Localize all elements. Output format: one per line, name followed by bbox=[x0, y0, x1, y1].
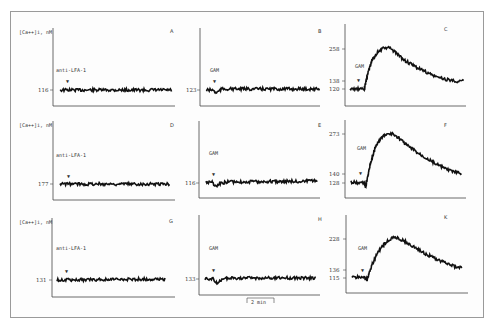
scale-bar-label: 2 min bbox=[251, 299, 266, 305]
trace-a bbox=[60, 89, 172, 92]
panel-label: G bbox=[169, 218, 173, 224]
panel-h: H GAM 133 ▼ 2 min bbox=[185, 215, 322, 305]
panel-label: A bbox=[170, 28, 174, 34]
stimulus-label: anti-LFA-1 bbox=[56, 152, 86, 158]
y-axis-label: [Ca++]i, nM bbox=[19, 219, 52, 225]
baseline-tick: 115 bbox=[329, 275, 340, 281]
trace-h bbox=[205, 277, 316, 285]
stimulus-label: GAM bbox=[358, 245, 367, 251]
trace-e bbox=[206, 180, 318, 187]
stimulus-arrow-icon: ▼ bbox=[67, 173, 70, 179]
panel-k: K GAM 228 136 115 ▼ bbox=[329, 214, 468, 293]
peak-tick: 273 bbox=[329, 131, 340, 137]
panel-label: C bbox=[444, 26, 448, 32]
baseline-tick: 177 bbox=[38, 181, 49, 187]
stimulus-arrow-icon: ▼ bbox=[65, 268, 68, 274]
trace-f bbox=[351, 133, 461, 187]
calcium-traces-figure: [Ca++]i, nM A anti-LFA-1 116 ▼ B GAM 123… bbox=[0, 0, 495, 332]
plateau-tick: 136 bbox=[329, 267, 340, 273]
panel-label: H bbox=[318, 216, 322, 222]
stimulus-arrow-icon: ▼ bbox=[66, 78, 69, 84]
peak-tick: 228 bbox=[329, 236, 340, 242]
panel-e: E GAM 116 ▼ bbox=[185, 121, 321, 198]
trace-c bbox=[350, 47, 464, 90]
panel-d: [Ca++]i, nM D anti-LFA-1 177 ▼ bbox=[19, 121, 175, 200]
stimulus-label: GAM bbox=[355, 63, 364, 69]
plateau-tick: 138 bbox=[329, 78, 340, 84]
baseline-tick: 120 bbox=[329, 86, 340, 92]
baseline-tick: 116 bbox=[38, 87, 49, 93]
time-scale-bar: 2 min bbox=[247, 298, 274, 305]
baseline-tick: 116 bbox=[185, 180, 196, 186]
baseline-tick: 133 bbox=[185, 276, 196, 282]
stimulus-arrow-icon: ▼ bbox=[361, 267, 364, 273]
panel-label: K bbox=[444, 214, 448, 220]
stimulus-label: anti-LFA-1 bbox=[56, 245, 86, 251]
panel-label: B bbox=[318, 28, 322, 34]
panel-label: D bbox=[170, 122, 174, 128]
trace-d bbox=[60, 183, 170, 186]
stimulus-label: GAM bbox=[209, 245, 218, 251]
plateau-tick: 140 bbox=[329, 171, 340, 177]
y-axis-label: [Ca++]i, nM bbox=[19, 122, 52, 128]
stimulus-arrow-icon: ▼ bbox=[359, 170, 362, 176]
baseline-tick: 131 bbox=[36, 277, 47, 283]
panel-label: E bbox=[318, 122, 321, 128]
trace-k bbox=[352, 237, 462, 281]
peak-tick: 258 bbox=[329, 46, 340, 52]
stimulus-label: GAM bbox=[357, 145, 366, 151]
stimulus-arrow-icon: ▼ bbox=[357, 77, 360, 83]
stimulus-arrow-icon: ▼ bbox=[212, 171, 215, 177]
trace-b bbox=[206, 88, 320, 94]
panel-a: [Ca++]i, nM A anti-LFA-1 116 ▼ bbox=[19, 28, 175, 106]
stimulus-arrow-icon: ▼ bbox=[212, 267, 215, 273]
baseline-tick: 128 bbox=[329, 180, 340, 186]
y-axis-label: [Ca++]i, nM bbox=[19, 29, 52, 35]
panel-g: [Ca++]i, nM G anti-LFA-1 131 ▼ bbox=[19, 218, 175, 297]
trace-g bbox=[57, 278, 165, 282]
stimulus-label: GAM bbox=[210, 67, 219, 73]
stimulus-label: GAM bbox=[209, 150, 218, 156]
baseline-tick: 123 bbox=[186, 87, 197, 93]
panel-f: F GAM 273 140 128 ▼ bbox=[329, 120, 466, 198]
panel-label: F bbox=[444, 122, 447, 128]
stimulus-arrow-icon: ▼ bbox=[213, 78, 216, 84]
panel-b: B GAM 123 ▼ bbox=[186, 28, 322, 106]
panel-c: C GAM 258 138 120 ▼ bbox=[329, 24, 466, 106]
stimulus-label: anti-LFA-1 bbox=[56, 67, 86, 73]
